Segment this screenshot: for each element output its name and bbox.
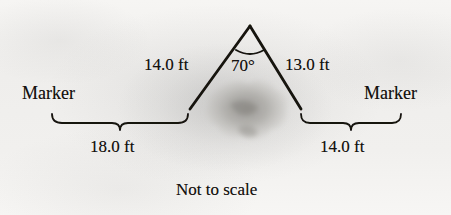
dimension-label-right: 14.0 ft xyxy=(320,138,364,155)
side-label-left: 14.0 ft xyxy=(144,56,188,73)
pond-blob xyxy=(206,80,289,140)
apex-angle-arc xyxy=(236,50,264,54)
marker-label-left: Marker xyxy=(22,84,75,102)
dimension-label-left: 18.0 ft xyxy=(90,138,134,155)
side-label-right: 13.0 ft xyxy=(285,56,329,73)
not-to-scale-caption: Not to scale xyxy=(176,181,257,198)
brace-left xyxy=(52,114,188,130)
brace-right xyxy=(301,114,401,130)
apex-angle-label: 70° xyxy=(231,57,255,74)
marker-label-right: Marker xyxy=(364,84,417,102)
surveying-diagram-figure: Marker Marker 14.0 ft 13.0 ft 70° 18.0 f… xyxy=(0,0,451,215)
